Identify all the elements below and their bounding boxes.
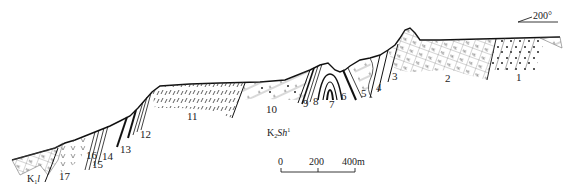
layer-label-9: 9 (303, 98, 309, 109)
formation-label-k1l: K1l (27, 174, 40, 187)
layer-label-1: 1 (516, 72, 522, 83)
layer-label-13: 13 (120, 144, 131, 155)
layer-label-7: 7 (329, 99, 335, 110)
layer-label-11: 11 (187, 111, 198, 122)
formation-name: Sh (277, 127, 287, 138)
cross-section-diagram: sg si (0, 0, 564, 193)
formation-sup: 1 (287, 127, 290, 133)
scale-tick-0: 0 (278, 157, 283, 167)
layer-label-2: 2 (445, 73, 451, 84)
layer-label-4: 4 (376, 82, 382, 93)
layer-label-14: 14 (102, 151, 113, 162)
layer-label-3: 3 (392, 71, 398, 82)
layer-label-5: 5 (361, 88, 367, 99)
formation-name: l (37, 173, 40, 184)
azimuth-label: 200° (533, 11, 552, 21)
layer-label-17: 17 (59, 171, 70, 182)
layer-label-6: 6 (341, 91, 347, 102)
scale-bar (281, 168, 355, 172)
layer-label-10: 10 (266, 104, 277, 115)
layer-label-12: 12 (140, 129, 151, 140)
scale-tick-200: 200 (309, 157, 324, 167)
formation-label-k2sh1: K2Sh1 (267, 125, 290, 141)
scale-tick-400m: 400m (342, 157, 365, 167)
layer-label-16: 16 (86, 150, 97, 161)
layer-label-8: 8 (313, 96, 319, 107)
